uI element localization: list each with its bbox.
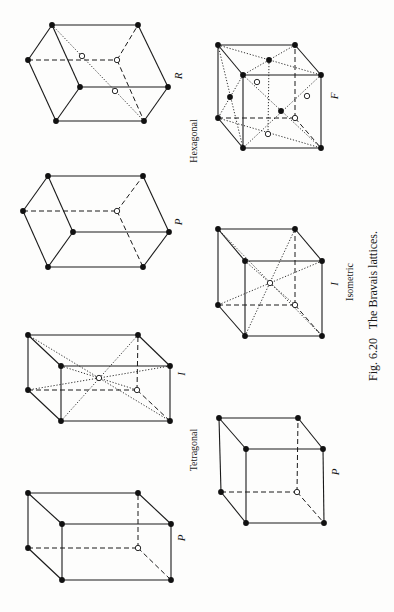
lattice-type-label: I xyxy=(175,371,187,377)
hollow-lattice-point xyxy=(114,208,119,213)
hollow-lattice-point xyxy=(294,489,299,494)
solid-edge xyxy=(144,87,168,121)
filled-lattice-point xyxy=(140,173,146,179)
solid-edge xyxy=(56,87,80,121)
dotted-edge xyxy=(268,60,269,134)
filled-lattice-point xyxy=(70,229,76,235)
filled-lattice-point xyxy=(295,415,301,421)
filled-lattice-point xyxy=(45,173,51,179)
solid-edge xyxy=(138,335,170,366)
solid-edge xyxy=(298,418,323,449)
system-label-isometric: Isometric xyxy=(344,263,355,301)
filled-lattice-point xyxy=(266,57,272,63)
filled-lattice-point xyxy=(218,489,224,495)
lattice-hexagonal-R xyxy=(28,25,168,121)
filled-lattice-point xyxy=(319,258,325,264)
solid-edge xyxy=(218,229,245,261)
filled-lattice-point xyxy=(49,22,55,28)
lattice-hexagonal-P xyxy=(23,176,169,267)
lattice-type-label: F xyxy=(328,92,340,100)
filled-lattice-point xyxy=(319,333,325,339)
dashed-edge xyxy=(138,548,171,580)
solid-edge xyxy=(295,45,321,75)
filled-lattice-point xyxy=(240,145,246,151)
solid-edge xyxy=(28,60,56,121)
solid-edge xyxy=(138,25,168,87)
dashed-edge xyxy=(297,492,324,523)
hollow-lattice-point xyxy=(254,79,259,84)
solid-edge xyxy=(28,493,62,524)
filled-lattice-point xyxy=(167,363,173,369)
filled-lattice-point xyxy=(141,118,147,124)
filled-lattice-point xyxy=(165,84,171,90)
hollow-lattice-point xyxy=(114,57,119,62)
solid-edge xyxy=(48,176,73,232)
hollow-lattice-point xyxy=(96,375,101,380)
filled-lattice-point xyxy=(135,22,141,28)
filled-lattice-point xyxy=(77,84,83,90)
lattice-type-label: R xyxy=(172,72,184,80)
hollow-lattice-point xyxy=(79,53,84,58)
dashed-edge xyxy=(137,390,170,421)
filled-lattice-point xyxy=(216,415,222,421)
solid-edge xyxy=(143,232,169,267)
dashed-edge xyxy=(295,118,321,148)
filled-lattice-point xyxy=(25,387,31,393)
filled-lattice-point xyxy=(292,226,298,232)
filled-lattice-point xyxy=(59,577,65,583)
solid-edge xyxy=(218,305,245,336)
solid-edge xyxy=(28,390,61,421)
filled-lattice-point xyxy=(166,229,172,235)
solid-edge xyxy=(138,493,171,524)
filled-lattice-point xyxy=(20,208,26,214)
system-label-tetragonal: Tetragonal xyxy=(188,428,199,471)
dashed-edge xyxy=(297,418,298,492)
filled-lattice-point xyxy=(45,264,51,270)
solid-edge xyxy=(295,229,322,261)
filled-lattice-point xyxy=(292,42,298,48)
solid-edge xyxy=(221,492,246,523)
hollow-lattice-point xyxy=(304,93,309,98)
filled-lattice-point xyxy=(168,577,174,583)
figure-caption: Fig. 6.20 The Bravais lattices. xyxy=(366,231,380,381)
filled-lattice-point xyxy=(58,418,64,424)
dashed-edge xyxy=(117,25,138,60)
lattice-edges xyxy=(23,25,324,580)
filled-lattice-point xyxy=(243,446,249,452)
filled-lattice-point xyxy=(167,418,173,424)
solid-edge xyxy=(52,25,80,87)
dashed-edge xyxy=(117,176,143,211)
solid-edge xyxy=(23,211,48,267)
hollow-lattice-point xyxy=(292,115,297,120)
system-label-hexagonal: Hexagonal xyxy=(188,119,199,163)
filled-lattice-point xyxy=(25,545,31,551)
points-tetragonal-P xyxy=(25,490,174,583)
lattice-type-label: I xyxy=(328,281,340,287)
filled-lattice-point xyxy=(140,264,146,270)
filled-lattice-point xyxy=(215,302,221,308)
dashed-edge xyxy=(117,211,143,267)
lattice-type-label: P xyxy=(175,534,187,542)
filled-lattice-point xyxy=(242,258,248,264)
filled-lattice-point xyxy=(25,490,31,496)
lattice-type-label: P xyxy=(172,218,184,226)
points-tetragonal-I xyxy=(25,332,173,424)
solid-edge xyxy=(28,335,61,366)
filled-lattice-point xyxy=(320,446,326,452)
filled-lattice-point xyxy=(215,226,221,232)
filled-lattice-point xyxy=(321,520,327,526)
lattice-type-label: P xyxy=(329,468,341,476)
solid-edge xyxy=(219,418,221,492)
dashed-edge xyxy=(295,305,322,336)
filled-lattice-point xyxy=(59,521,65,527)
solid-edge xyxy=(28,25,52,60)
bravais-lattices-figure: RPIPFIP HexagonalTetragonalIsometric Fig… xyxy=(0,0,394,612)
filled-lattice-point xyxy=(53,118,59,124)
dashed-edge xyxy=(137,335,138,390)
filled-lattice-point xyxy=(58,363,64,369)
filled-lattice-point xyxy=(242,333,248,339)
filled-lattice-point xyxy=(240,72,246,78)
filled-lattice-point xyxy=(168,521,174,527)
solid-edge xyxy=(23,176,48,211)
lattice-isometric-P xyxy=(219,418,324,523)
